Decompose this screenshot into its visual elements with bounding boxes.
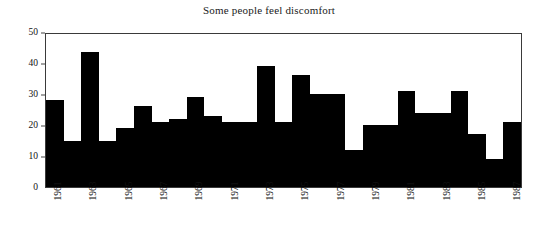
- x-axis-slot: [63, 189, 81, 237]
- bar: [503, 122, 521, 187]
- x-axis-slot: 1965: [116, 189, 134, 237]
- bar: [380, 125, 398, 187]
- bar: [204, 116, 222, 187]
- bar: [415, 113, 433, 187]
- bar: [328, 94, 346, 187]
- x-axis-slot: [204, 189, 222, 237]
- x-axis-slot: 1971: [222, 189, 240, 237]
- x-axis-slot: 1977: [328, 189, 346, 237]
- x-axis-slot: [98, 189, 116, 237]
- y-axis: 01020304050: [0, 33, 45, 188]
- x-axis-slot: [239, 189, 257, 237]
- bar: [152, 122, 170, 187]
- x-axis-tick-label: 1987: [513, 182, 523, 201]
- x-axis-slot: 1983: [434, 189, 452, 237]
- bar: [433, 113, 451, 187]
- bar: [345, 150, 363, 187]
- x-axis-slot: 1967: [151, 189, 169, 237]
- x-axis-slot: 1969: [186, 189, 204, 237]
- x-axis-slot: 1961: [45, 189, 63, 237]
- bar: [222, 122, 240, 187]
- x-axis-slot: 1981: [398, 189, 416, 237]
- bar: [169, 119, 187, 187]
- y-axis-tick-label: 10: [29, 152, 39, 162]
- x-axis-slot: [345, 189, 363, 237]
- y-axis-tick-label: 0: [33, 183, 38, 193]
- bar: [486, 159, 504, 187]
- x-axis-slot: [310, 189, 328, 237]
- bar: [134, 106, 152, 187]
- x-axis-slot: [487, 189, 505, 237]
- y-axis-tick-label: 50: [29, 28, 39, 38]
- bar: [257, 66, 275, 187]
- chart-figure: Some people feel discomfort 01020304050 …: [0, 0, 538, 237]
- x-axis-slot: [275, 189, 293, 237]
- bar: [275, 122, 293, 187]
- bar: [99, 141, 117, 188]
- x-axis-slot: [169, 189, 187, 237]
- bar: [292, 75, 310, 187]
- bar: [46, 100, 64, 187]
- bar: [187, 97, 205, 187]
- bar: [363, 125, 381, 187]
- y-axis-tick-label: 20: [29, 121, 39, 131]
- bar: [468, 134, 486, 187]
- plot-area: [45, 33, 522, 188]
- x-axis-slot: 1975: [292, 189, 310, 237]
- x-axis-slot: [416, 189, 434, 237]
- bar: [81, 52, 99, 187]
- chart-title: Some people feel discomfort: [0, 4, 538, 16]
- bar: [64, 141, 82, 188]
- y-axis-tick-label: 40: [29, 59, 39, 69]
- x-axis-slot: 1979: [363, 189, 381, 237]
- x-axis-slot: [133, 189, 151, 237]
- x-axis-slot: 1963: [80, 189, 98, 237]
- x-axis: 1961196319651967196919711973197519771979…: [45, 189, 522, 237]
- x-axis-slot: 1987: [504, 189, 522, 237]
- bar: [116, 128, 134, 187]
- bar-series: [46, 34, 521, 187]
- x-axis-slot: 1985: [469, 189, 487, 237]
- x-axis-slot: 1973: [257, 189, 275, 237]
- bar: [398, 91, 416, 187]
- x-axis-slot: [451, 189, 469, 237]
- x-axis-slot: [381, 189, 399, 237]
- bar: [240, 122, 258, 187]
- bar: [451, 91, 469, 187]
- bar: [310, 94, 328, 187]
- y-axis-tick-label: 30: [29, 90, 39, 100]
